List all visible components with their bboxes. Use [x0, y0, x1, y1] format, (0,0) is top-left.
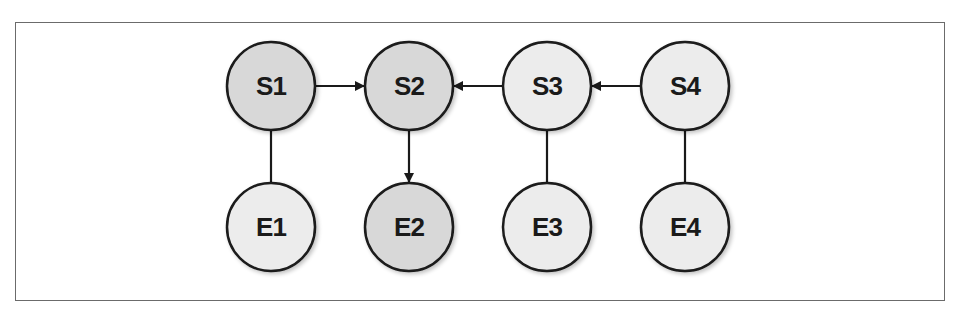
- node-label: S3: [532, 71, 562, 101]
- node-s2: S2: [365, 42, 453, 130]
- node-label: E2: [394, 212, 424, 242]
- node-label: E3: [532, 212, 562, 242]
- nodes-layer: S1S2S3S4E1E2E3E4: [227, 42, 729, 271]
- node-e3: E3: [503, 183, 591, 271]
- edges-layer: [271, 86, 685, 182]
- node-e2: E2: [365, 183, 453, 271]
- node-e1: E1: [227, 183, 315, 271]
- node-label: S1: [256, 71, 286, 101]
- state-diagram: S1S2S3S4E1E2E3E4: [0, 0, 964, 316]
- node-label: E1: [256, 212, 286, 242]
- node-label: E4: [670, 212, 701, 242]
- node-s4: S4: [641, 42, 729, 130]
- node-label: S2: [394, 71, 424, 101]
- node-e4: E4: [641, 183, 729, 271]
- node-s3: S3: [503, 42, 591, 130]
- node-s1: S1: [227, 42, 315, 130]
- node-label: S4: [670, 71, 701, 101]
